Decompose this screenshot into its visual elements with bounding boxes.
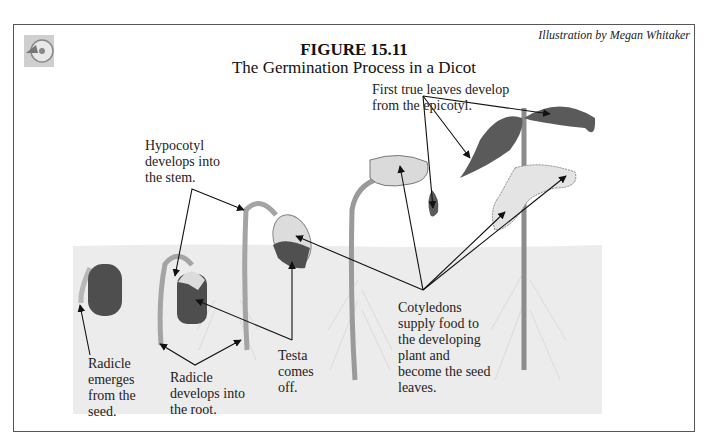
label-cotyledons: Cotyledons supply food to the developing… — [398, 300, 491, 396]
label-hypocotyl: Hypocotyl develops into the stem. — [145, 138, 220, 186]
label-radicle-root: Radicle develops into the root. — [170, 370, 245, 418]
label-radicle-emerges: Radicle emerges from the seed. — [88, 356, 136, 420]
label-true-leaves: First true leaves develop from the epico… — [372, 82, 509, 114]
label-testa: Testa comes off. — [278, 348, 314, 396]
